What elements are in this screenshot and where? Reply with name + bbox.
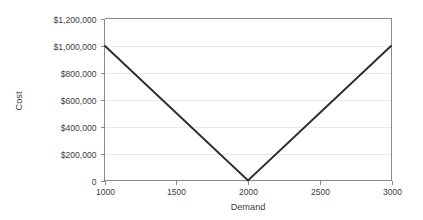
chart-background <box>0 0 423 220</box>
y-tick-label: $1,000,000 <box>53 42 96 52</box>
x-tick-label: 2500 <box>311 187 330 197</box>
y-tick-label: 0 <box>92 177 97 187</box>
x-tick-label: 3000 <box>383 187 402 197</box>
x-tick-label: 2000 <box>239 187 258 197</box>
chart-container: 0$200,000$400,000$600,000$800,000$1,000,… <box>0 0 423 220</box>
x-tick-label: 1500 <box>167 187 186 197</box>
y-tick-label: $600,000 <box>61 96 97 106</box>
y-tick-label: $200,000 <box>61 150 97 160</box>
y-tick-label: $800,000 <box>61 69 97 79</box>
x-tick-label: 1000 <box>96 187 115 197</box>
cost-vs-demand-line-chart: 0$200,000$400,000$600,000$800,000$1,000,… <box>0 0 423 220</box>
x-axis-title: Demand <box>231 202 266 212</box>
y-tick-label: $400,000 <box>61 123 97 133</box>
y-tick-label: $1,200,000 <box>53 15 96 25</box>
y-axis-title: Cost <box>14 91 24 110</box>
